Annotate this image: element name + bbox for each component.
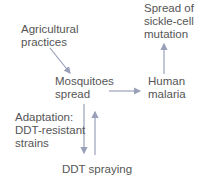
- node-agricultural-practices: Agricultural practices: [21, 23, 79, 49]
- node-sickle-cell: Spread of sickle-cell mutation: [144, 2, 194, 41]
- node-adaptation: Adaptation: DDT-resistant strains: [15, 111, 85, 150]
- arrow-agricultural-to-mosquitoes: [50, 48, 70, 73]
- node-human-malaria: Human malaria: [148, 75, 186, 101]
- node-ddt-spraying: DDT spraying: [62, 163, 132, 176]
- node-mosquitoes-spread: Mosquitoes spread: [55, 75, 114, 101]
